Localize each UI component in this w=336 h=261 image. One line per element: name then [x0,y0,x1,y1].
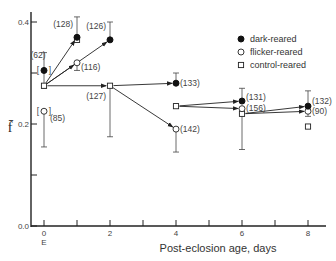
plot-area: 0.00.20.402468E [][] (62)(128)(126)(133)… [0,0,336,261]
x-tick-label: 4 [174,229,179,238]
sample-size-label: (133) [180,78,200,88]
flicker-reared-point [173,126,179,132]
control-reared-point [305,124,310,129]
y-tick-label: 0.4 [18,18,30,27]
x-tick-label: 0 [42,229,47,238]
transition-arrow [46,41,75,83]
sample-size-label: (62) [30,50,45,60]
legend-item-dark-reared: dark-reared [250,34,297,44]
sample-size-label: (131) [246,92,266,102]
x-tick-label: 2 [108,229,113,238]
sample-size-label: (156) [246,103,266,113]
transition-arrow [179,101,238,106]
control-reared-point [41,83,46,88]
sample-size-label: (90) [312,106,327,116]
y-axis-label: f̄ [8,120,14,135]
svg-text:[: [ [37,65,40,75]
dark-reared-point [173,80,179,86]
y-tick-label: 0.2 [18,120,30,129]
x-axis-label: Post-eclosion age, days [160,242,277,254]
legend: dark-rearedflicker-rearedcontrol-reared [238,34,306,70]
control-reared-point [107,83,112,88]
legend-item-control-reared: control-reared [250,60,306,70]
sample-size-label: (142) [180,124,200,134]
x-tick-label: 8 [306,229,311,238]
control-reared-point [173,104,178,109]
sample-size-label: (116) [81,62,100,72]
sample-size-label: (127) [86,91,106,101]
flicker-reared-point [41,108,47,114]
transition-arrow [113,88,173,127]
svg-text:[: [ [37,106,40,116]
flicker-reared-point [239,106,245,112]
legend-item-flicker-reared: flicker-reared [250,47,303,57]
transition-arrow [179,106,238,108]
transition-arrow [113,83,172,85]
legend-marker-dark-reared [238,36,244,42]
flicker-reared-point [74,60,80,66]
x-tick-label: 6 [240,229,245,238]
dark-reared-point [74,34,80,40]
legend-marker-flicker-reared [238,49,244,55]
legend-marker-control-reared [238,62,243,67]
svg-text:]: ] [49,65,51,75]
dark-reared-point [305,103,311,109]
dark-reared-point [107,37,113,43]
y-tick-label: 0.0 [18,222,30,231]
sample-size-label: (132) [312,96,332,106]
x-tick-sublabel: E [41,238,46,247]
dark-reared-point [239,98,245,104]
dark-reared-point [41,67,47,73]
chart: 0.00.20.402468E [][] (62)(128)(126)(133)… [0,0,336,261]
sample-size-label: (85) [50,113,65,123]
sample-size-label: (126) [86,21,106,31]
sample-size-label: (128) [53,19,73,29]
